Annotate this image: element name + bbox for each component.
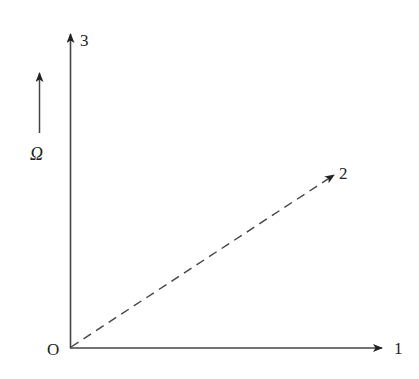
axis-2-label: 2: [339, 164, 348, 183]
coordinate-diagram: 3 2 1 O Ω: [0, 0, 419, 379]
axis-3-label: 3: [80, 31, 89, 50]
axis-1-label: 1: [394, 339, 403, 358]
omega-label: Ω: [30, 144, 43, 164]
origin-label: O: [47, 340, 59, 359]
axis-2-line: [71, 175, 334, 347]
